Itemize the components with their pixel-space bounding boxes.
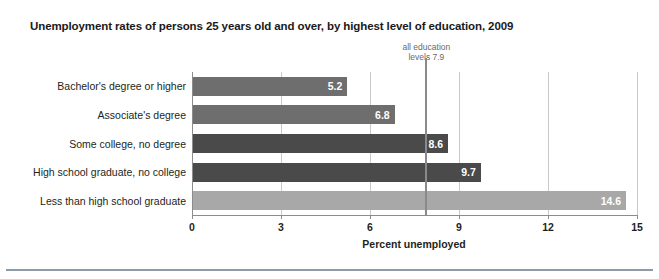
chart-title: Unemployment rates of persons 25 years o… [30, 20, 513, 32]
category-label: Less than high school graduate [0, 195, 186, 207]
chart-figure: Unemployment rates of persons 25 years o… [0, 0, 659, 279]
x-tick-label-15: 15 [631, 221, 643, 233]
bar-value-label: 9.7 [461, 166, 476, 178]
x-tick-label-6: 6 [367, 221, 373, 233]
bar-value-label: 5.2 [328, 80, 343, 92]
bar-value-label: 8.6 [429, 138, 444, 150]
gridline-15 [637, 72, 638, 215]
bar-value-label: 6.8 [375, 109, 390, 121]
x-axis-line [192, 215, 638, 216]
x-tick-12 [548, 215, 549, 219]
category-label: Some college, no degree [0, 138, 186, 150]
x-tick-label-0: 0 [189, 221, 195, 233]
category-axis-labels: Bachelor's degree or higherAssociate's d… [0, 72, 186, 215]
x-tick-label-12: 12 [542, 221, 554, 233]
x-tick-0 [192, 215, 193, 219]
bar[interactable]: 5.2 [193, 77, 347, 96]
category-label: Associate's degree [0, 109, 186, 121]
x-tick-15 [637, 215, 638, 219]
x-tick-label-3: 3 [278, 221, 284, 233]
bar[interactable]: 9.7 [193, 163, 481, 182]
plot-area: 5.26.88.69.714.6 03691215 Percent unempl… [192, 72, 637, 215]
bar[interactable]: 8.6 [193, 134, 448, 153]
bar[interactable]: 14.6 [193, 191, 626, 210]
category-label: Bachelor's degree or higher [0, 80, 186, 92]
x-axis-title: Percent unemployed [362, 238, 465, 250]
bottom-divider [6, 269, 653, 271]
reference-line [425, 58, 427, 215]
bar-value-label: 14.6 [601, 195, 621, 207]
x-tick-3 [281, 215, 282, 219]
x-tick-9 [459, 215, 460, 219]
category-label: High school graduate, no college [0, 166, 186, 178]
reference-annotation-line1: all education [402, 42, 450, 52]
bar[interactable]: 6.8 [193, 105, 395, 124]
x-tick-label-9: 9 [456, 221, 462, 233]
x-tick-6 [370, 215, 371, 219]
